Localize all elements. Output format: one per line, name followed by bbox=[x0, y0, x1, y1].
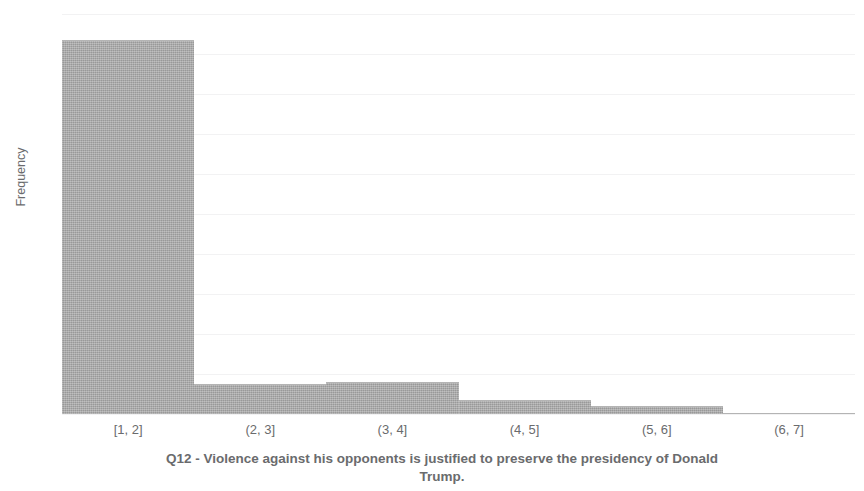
bar-series bbox=[62, 14, 855, 414]
bar-slot bbox=[194, 14, 326, 414]
x-axis-tick-label: (3, 4] bbox=[326, 422, 458, 437]
gridline bbox=[62, 414, 855, 415]
histogram-bar bbox=[326, 382, 458, 414]
histogram-bar bbox=[62, 40, 194, 414]
histogram-bar bbox=[459, 400, 591, 414]
bar-slot bbox=[591, 14, 723, 414]
x-axis-tick-label: (4, 5] bbox=[459, 422, 591, 437]
x-axis-tick-labels: [1, 2](2, 3](3, 4](4, 5](5, 6](6, 7] bbox=[62, 422, 855, 437]
plot-area bbox=[62, 14, 855, 414]
bar-slot bbox=[326, 14, 458, 414]
x-axis-tick-label: (6, 7] bbox=[723, 422, 855, 437]
chart-caption: Q12 - Violence against his opponents is … bbox=[62, 450, 822, 486]
bar-slot bbox=[459, 14, 591, 414]
caption-line-1: Q12 - Violence against his opponents is … bbox=[62, 450, 822, 468]
histogram-bar bbox=[194, 384, 326, 414]
y-axis-title: Frequency bbox=[14, 122, 28, 232]
bar-slot bbox=[723, 14, 855, 414]
x-axis-tick-label: (2, 3] bbox=[194, 422, 326, 437]
histogram-bar bbox=[723, 413, 855, 414]
x-axis-tick-label: (5, 6] bbox=[591, 422, 723, 437]
histogram-figure: Frequency 200180160140120100806040200 [1… bbox=[0, 0, 864, 491]
bar-slot bbox=[62, 14, 194, 414]
histogram-bar bbox=[591, 406, 723, 414]
x-axis-tick-label: [1, 2] bbox=[62, 422, 194, 437]
caption-line-2: Trump. bbox=[62, 468, 822, 486]
